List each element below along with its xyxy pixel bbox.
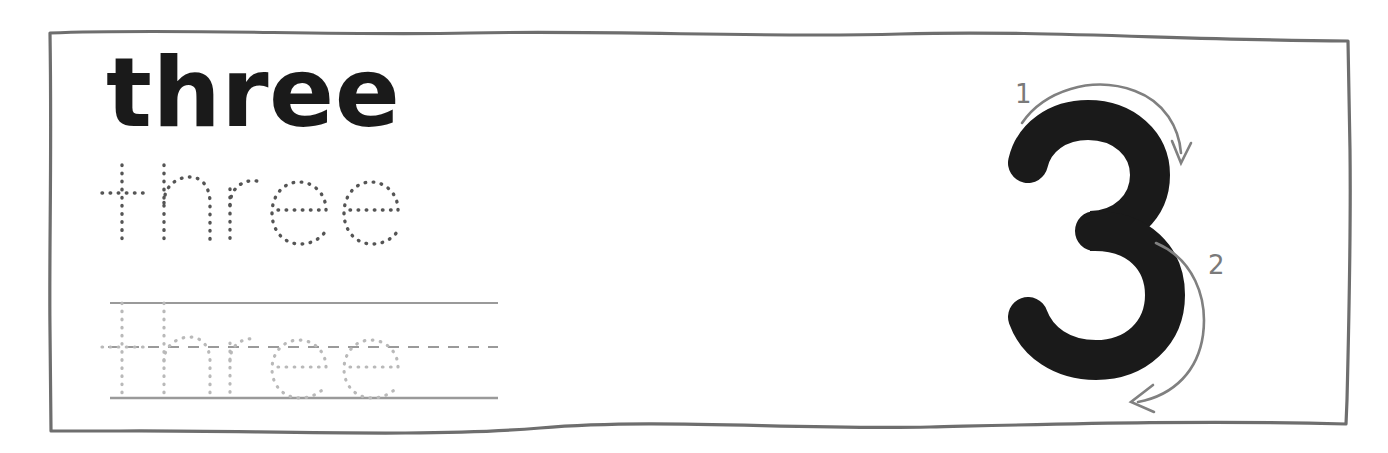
bold-word-three: three (106, 45, 400, 141)
worksheet-page: three (0, 0, 1388, 453)
numeral-practice-panel: 1 2 (960, 45, 1290, 415)
stroke-order-label-1: 1 (1015, 81, 1032, 107)
dotted-word-three-light (100, 285, 520, 400)
word-practice-panel: three (100, 45, 520, 415)
trace-row-guided-light (100, 285, 520, 400)
trace-row-dotted-dark (100, 163, 520, 268)
arrow-1-path (1022, 85, 1181, 153)
dotted-word-three-dark (100, 163, 520, 268)
stroke-order-arrows (960, 45, 1290, 415)
stroke-order-label-2: 2 (1208, 252, 1225, 278)
arrow-2-path (1138, 243, 1204, 402)
